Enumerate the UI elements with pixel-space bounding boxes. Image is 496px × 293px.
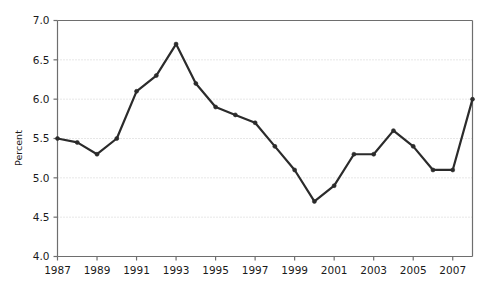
data-point-marker: 2008: 6 <box>471 97 475 101</box>
data-point-marker: 1988: 5.45 <box>75 140 79 144</box>
y-tick-label: 6.0 <box>33 93 50 105</box>
y-tick-label: 5.0 <box>33 172 50 184</box>
data-point-marker: 1996: 5.8 <box>233 113 237 117</box>
data-point-marker: 1994: 6.2 <box>194 81 198 85</box>
data-point-marker: 2003: 5.3 <box>372 152 376 156</box>
data-point-marker: 2006: 5.1 <box>431 168 435 172</box>
data-point-marker: 1987: 5.5 <box>56 137 60 141</box>
data-point-marker: 2007: 5.1 <box>451 168 455 172</box>
data-point-marker: 1989: 5.3 <box>95 152 99 156</box>
x-tick-label: 1995 <box>202 264 229 276</box>
x-tick-label: 1989 <box>84 264 111 276</box>
x-tick-label: 1991 <box>123 264 150 276</box>
chart-container: 4.04.55.05.56.06.57.0 198719891991199319… <box>0 0 496 293</box>
y-tick-label: 5.5 <box>33 132 50 144</box>
x-tick-label: 2003 <box>360 264 387 276</box>
y-axis-label: Percent <box>13 130 24 166</box>
data-point-marker: 2005: 5.4 <box>411 144 415 148</box>
data-point-marker: 1993: 6.7 <box>174 42 178 46</box>
data-point-marker: 1991: 6.1 <box>135 89 139 93</box>
data-point-marker: 1990: 5.5 <box>115 137 119 141</box>
data-point-marker: 2000: 4.7 <box>312 199 316 203</box>
data-point-marker: 1999: 5.1 <box>293 168 297 172</box>
x-tick-label: 2001 <box>321 264 348 276</box>
data-point-marker: 1995: 5.9 <box>214 105 218 109</box>
y-tick-label: 4.5 <box>33 211 50 223</box>
x-tick-label: 1997 <box>242 264 269 276</box>
x-tick-label: 1987 <box>44 264 71 276</box>
data-point-marker: 1998: 5.4 <box>273 144 277 148</box>
x-tick-label: 1999 <box>281 264 308 276</box>
data-point-marker: 2004: 5.6 <box>391 129 395 133</box>
y-tick-label: 4.0 <box>33 250 50 262</box>
x-tick-label: 2007 <box>439 264 466 276</box>
y-tick-label: 7.0 <box>33 14 50 26</box>
data-point-marker: 1997: 5.7 <box>253 121 257 125</box>
line-chart: 4.04.55.05.56.06.57.0 198719891991199319… <box>0 0 496 293</box>
x-tick-label: 2005 <box>400 264 427 276</box>
chart-background <box>0 0 496 293</box>
data-point-marker: 2002: 5.3 <box>352 152 356 156</box>
data-point-marker: 2001: 4.9 <box>332 184 336 188</box>
y-tick-label: 6.5 <box>33 54 50 66</box>
data-point-marker: 1992: 6.3 <box>154 74 158 78</box>
x-tick-label: 1993 <box>163 264 190 276</box>
